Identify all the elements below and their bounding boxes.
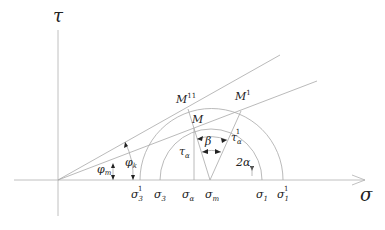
sigma3-prime-label: σ31 [131, 185, 144, 203]
phi-m-arrow-up-icon [111, 163, 115, 168]
two-alpha-label: 2α [235, 156, 251, 169]
tau-axis-label: τ [53, 5, 64, 26]
point-M1-label: M1 [234, 89, 251, 103]
phi-m-label: φm [97, 163, 112, 177]
phi-m-arrow-down-icon [111, 175, 115, 180]
sigma-alpha-label: σα [182, 188, 195, 203]
sigma-m-label: σm [205, 188, 220, 203]
sigma1-prime-label: σ11 [277, 185, 289, 203]
sigma3-label: σ3 [154, 188, 167, 203]
phi-k-arrow-down-icon [131, 175, 135, 180]
sigma-axis-label: σ [360, 184, 373, 205]
mohr-diagram: τ σ M11 M1 M φm φk β 2α τα τα1 σ31 σ3 σα… [0, 0, 385, 230]
tau-alpha-label: τα [179, 145, 190, 160]
beta-label: β [204, 135, 211, 148]
tau-alpha1-label: τα1 [231, 128, 242, 146]
sigma1-label: σ1 [256, 188, 268, 203]
point-M-label: M [191, 113, 204, 126]
phi-k-label: φk [125, 156, 137, 170]
